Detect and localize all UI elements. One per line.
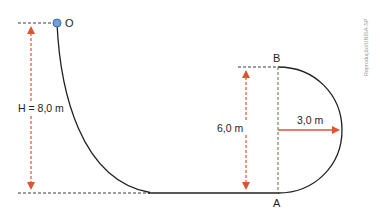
label-o: O <box>65 17 74 29</box>
label-b: B <box>273 52 280 64</box>
image-credit: Reprodução/UNISA-SP <box>363 18 369 76</box>
label-radius: 3,0 m <box>297 114 324 126</box>
ramp-curve <box>57 23 150 193</box>
ball-icon <box>53 19 61 27</box>
label-a: A <box>273 197 281 209</box>
label-loop-height: 6,0 m <box>217 122 244 134</box>
track-diagram: O H = 8,0 m B A 6,0 m 3,0 m Reprodução/U… <box>0 0 380 216</box>
label-h: H = 8,0 m <box>18 102 64 114</box>
